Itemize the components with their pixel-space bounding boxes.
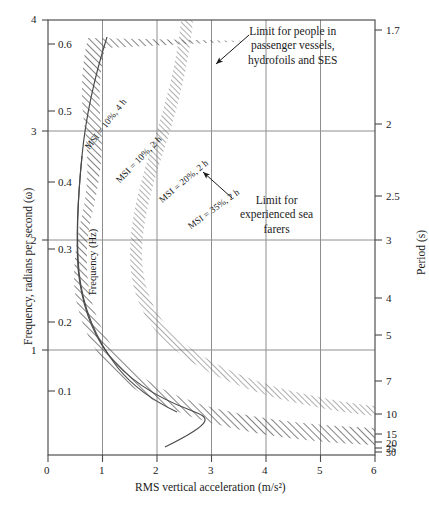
hz-tick-0p2: 0.2 (58, 316, 72, 329)
hz-tick-0p1: 0.1 (58, 385, 72, 398)
annotation-sea-farers: Limit for experienced sea farers (240, 193, 313, 236)
y-axis-title-hz: Frequency (Hz) (87, 229, 99, 295)
hz-tick-0p4: 0.4 (58, 176, 72, 189)
annotation-seafarers-line-3: farers (240, 222, 313, 236)
x-axis-title: RMS vertical acceleration (m/s²) (135, 481, 286, 495)
period-tick-1p7: 1.7 (386, 24, 400, 37)
annotation-passenger-line-1: Limit for people in (248, 24, 337, 38)
period-tick-4: 4 (386, 292, 392, 305)
x-tick-2: 2 (153, 464, 159, 477)
y-axis-title-period: Period (s) (415, 230, 429, 275)
period-tick-10: 10 (386, 408, 397, 421)
annotation-seafarers-line-1: Limit for (240, 193, 313, 207)
x-tick-5: 5 (317, 464, 323, 477)
x-tick-6: 6 (371, 464, 377, 477)
hz-tick-0p5: 0.5 (58, 105, 72, 118)
x-tick-1: 1 (99, 464, 105, 477)
omega-tick-3: 3 (31, 125, 37, 138)
annotation-passenger-vessels: Limit for people in passenger vessels, h… (248, 24, 337, 67)
x-tick-3: 3 (208, 464, 214, 477)
hz-tick-0p3: 0.3 (58, 243, 72, 256)
hz-tick-0p6: 0.6 (58, 38, 72, 51)
period-tick-30: 30 (386, 447, 396, 459)
omega-tick-1: 1 (31, 344, 37, 357)
period-tick-3: 3 (386, 234, 392, 247)
annotation-passenger-line-3: hydrofoils and SES (248, 53, 337, 67)
period-tick-2p5: 2.5 (386, 190, 400, 203)
period-tick-7: 7 (386, 375, 392, 388)
omega-tick-4: 4 (31, 13, 37, 26)
x-tick-0: 0 (44, 464, 50, 477)
y-axis-title-omega: Frequency, radians per second (ω) (22, 188, 36, 345)
period-tick-5: 5 (386, 329, 392, 342)
period-tick-2: 2 (386, 118, 392, 131)
annotation-passenger-line-2: passenger vessels, (248, 38, 337, 52)
annotation-seafarers-line-2: experienced sea (240, 207, 313, 221)
x-tick-4: 4 (262, 464, 268, 477)
